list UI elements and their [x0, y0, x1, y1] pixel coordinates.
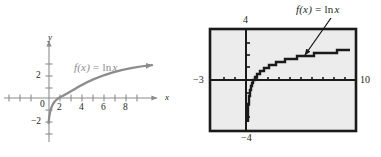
left-fn-f-part: f(x): [74, 61, 90, 73]
left-graph-svg: [0, 0, 190, 157]
left-function-label: f(x) = ln x: [74, 62, 118, 73]
right-function-label: f(x) = ln x: [296, 4, 340, 15]
right-fn-arg: x: [334, 3, 339, 15]
right-graph-panel: 4 −4 −3 10 f(x) = ln x: [190, 0, 381, 157]
x-tick-label-6: 6: [101, 103, 106, 113]
window-ymax-label: 4: [243, 15, 248, 25]
y-axis-label: y: [48, 33, 52, 42]
y-tick-label-neg2: −2: [31, 117, 41, 127]
right-fn-equals: =: [312, 3, 324, 15]
window-xmax-label: 10: [360, 75, 370, 85]
y-tick-label-2: 2: [36, 71, 41, 81]
origin-label: 0: [40, 100, 45, 110]
calculator-screen-svg: [190, 0, 381, 157]
left-fn-arg: x: [112, 61, 117, 73]
ln-curve: [49, 65, 152, 123]
x-tick-label-4: 4: [79, 103, 84, 113]
x-axis-label: x: [165, 93, 169, 102]
right-fn-f-part: f(x): [296, 3, 312, 15]
x-tick-label-8: 8: [123, 103, 128, 113]
left-fn-equals: =: [90, 61, 102, 73]
window-ymin-label: −4: [241, 133, 252, 143]
left-fn-ln: ln: [102, 61, 111, 73]
figure-container: y x 0 2 4 6 8 2 −2 f(x) = ln x: [0, 0, 381, 157]
right-fn-ln: ln: [324, 3, 333, 15]
left-graph-panel: y x 0 2 4 6 8 2 −2 f(x) = ln x: [0, 0, 190, 157]
window-xmin-label: −3: [193, 75, 204, 85]
x-tick-label-2: 2: [57, 103, 62, 113]
